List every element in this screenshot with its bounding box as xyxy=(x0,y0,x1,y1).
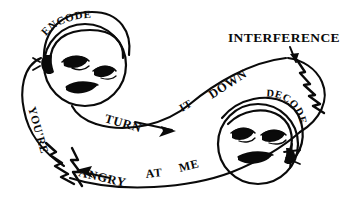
decoder-left-eye xyxy=(231,128,255,143)
ribbon-inner-tail xyxy=(72,106,96,124)
outbound-word-down: DOWN xyxy=(206,67,249,102)
encode-band-label: ENCODE xyxy=(39,8,92,38)
loop-ribbon xyxy=(22,58,324,187)
noise-left-group xyxy=(46,143,82,186)
decoder-mouth xyxy=(238,151,273,163)
outbound-word-turn: TURN xyxy=(103,111,143,135)
illustration-canvas: ENCODE xyxy=(0,0,353,216)
encoder-ear-icon xyxy=(41,55,54,74)
interference-label: INTERFERENCE xyxy=(228,30,340,45)
decoder-right-eye xyxy=(261,130,286,145)
return-word-at: AT xyxy=(145,165,163,181)
return-word-me: ME xyxy=(177,156,200,175)
communication-loop-diagram: ENCODE xyxy=(0,0,353,216)
encoder-right-eye xyxy=(93,66,116,80)
encoder-mouth xyxy=(66,81,98,93)
encoder-face: ENCODE xyxy=(33,8,129,106)
encoder-left-eye xyxy=(62,56,89,70)
